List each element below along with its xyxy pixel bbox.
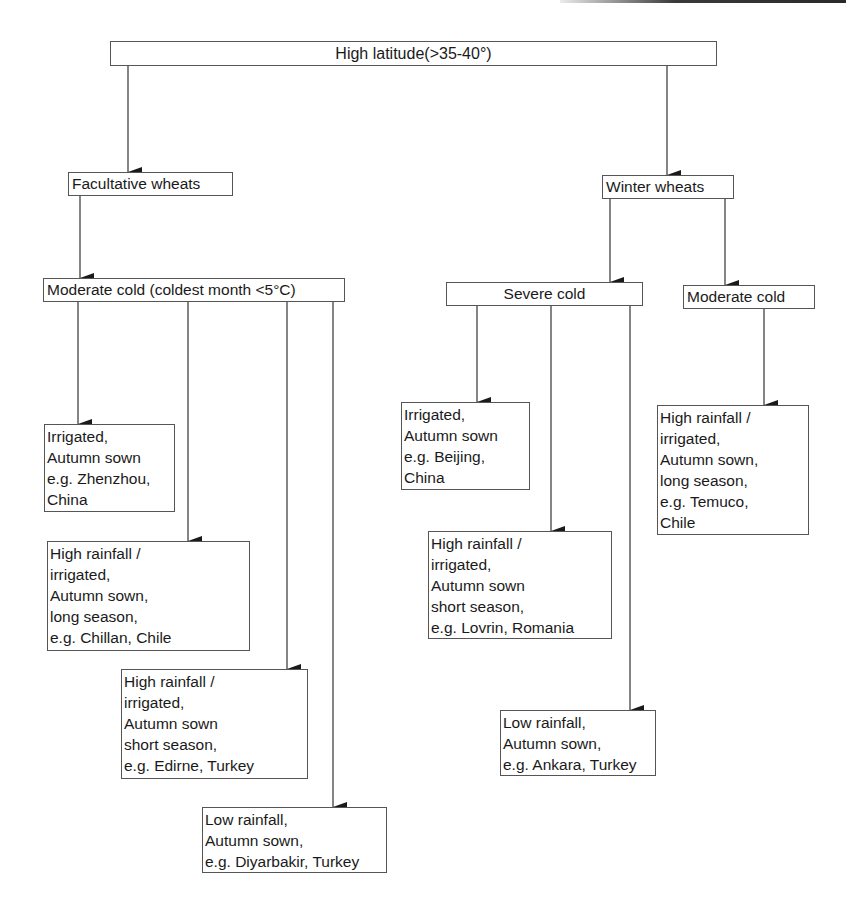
node-beijing: Irrigated, Autumn sown e.g. Beijing, Chi…	[401, 402, 530, 490]
node-high-latitude: High latitude(>35-40°)	[110, 41, 717, 66]
node-severe-cold: Severe cold	[446, 282, 643, 306]
node-temuco: High rainfall / irrigated, Autumn sown, …	[657, 405, 809, 535]
node-chillan: High rainfall / irrigated, Autumn sown, …	[47, 541, 250, 651]
node-moderate-cold-right: Moderate cold	[683, 285, 815, 309]
node-moderate-cold-left: Moderate cold (coldest month <5°C)	[43, 278, 345, 302]
node-ankara: Low rainfall, Autumn sown, e.g. Ankara, …	[500, 710, 656, 776]
node-diyarbakir: Low rainfall, Autumn sown, e.g. Diyarbak…	[202, 807, 387, 873]
node-lovrin: High rainfall / irrigated, Autumn sown s…	[428, 531, 612, 639]
node-zhenzhou: Irrigated, Autumn sown e.g. Zhenzhou, Ch…	[44, 424, 175, 512]
node-winter-wheats: Winter wheats	[602, 175, 734, 199]
node-facultative-wheats: Facultative wheats	[68, 172, 233, 196]
node-edirne: High rainfall / irrigated, Autumn sown s…	[121, 669, 308, 779]
